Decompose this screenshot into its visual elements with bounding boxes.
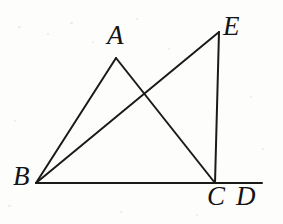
segment-ec — [215, 32, 219, 183]
vertex-label-a: A — [107, 22, 124, 49]
segment-ba — [36, 58, 116, 183]
vertex-label-d: D — [236, 183, 256, 210]
vertex-label-c: C — [207, 183, 225, 210]
geometry-diagram: A E B C D — [0, 0, 283, 224]
vertex-label-e: E — [223, 13, 240, 40]
segment-be — [36, 32, 219, 183]
vertex-label-b: B — [13, 163, 30, 190]
